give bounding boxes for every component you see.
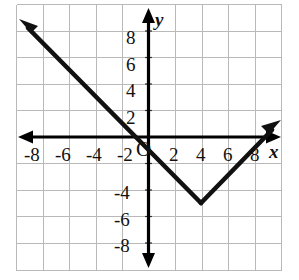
x-axis-left-arrow: [18, 131, 33, 144]
y-tick-label-neg8: -8: [114, 236, 130, 255]
y-tick-label-neg6: -6: [114, 210, 130, 229]
x-tick-label-6: 6: [223, 145, 233, 164]
y-axis-bottom-arrow: [142, 253, 155, 268]
graph-right-branch: [201, 130, 272, 203]
x-tick-label-2: 2: [169, 145, 179, 164]
y-tick-label-2: 2: [126, 108, 136, 127]
x-tick-label-neg6: -6: [55, 145, 71, 164]
x-axis-label: x: [269, 142, 279, 161]
x-tick-label-neg8: -8: [24, 145, 40, 164]
x-tick-label-4: 4: [196, 145, 206, 164]
x-tick-label-neg4: -4: [86, 145, 102, 164]
y-tick-label-neg4: -4: [114, 183, 130, 202]
origin-label: O: [136, 139, 151, 160]
y-tick-label-4: 4: [126, 81, 136, 100]
x-tick-label-8: 8: [250, 145, 260, 164]
x-tick-label-neg2: -2: [117, 145, 133, 164]
y-axis-top-arrow: [142, 8, 155, 23]
y-tick-label-8: 8: [126, 28, 136, 47]
y-axis-label: y: [155, 10, 163, 29]
y-tick-label-6: 6: [126, 55, 136, 74]
graph-figure: -8 -6 -4 -2 2 4 6 8 8 6 4 2 -4 -6 -8 O x…: [0, 0, 299, 280]
